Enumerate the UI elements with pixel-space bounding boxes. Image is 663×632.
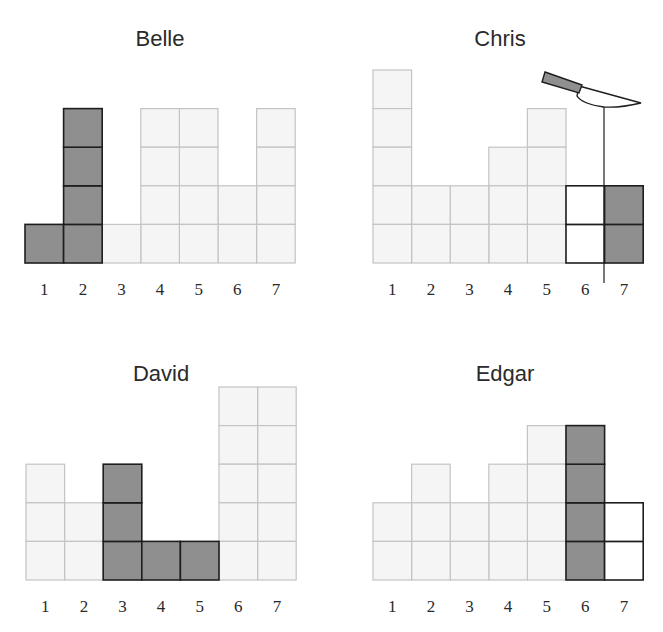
block-col6-row2-light (218, 186, 257, 225)
block-col7-row2-empty (605, 503, 644, 542)
block-col2-row2-light (412, 503, 451, 542)
column-label: 5 (542, 597, 551, 616)
block-col7-row4-light (258, 426, 297, 465)
block-col2-row2-light (65, 503, 104, 542)
block-col7-row4-light (257, 109, 296, 148)
block-col4-row1-light (489, 541, 528, 580)
panel-david: David 1234567 (26, 361, 296, 616)
column-label: 6 (234, 597, 243, 616)
block-col1-row2-light (26, 503, 65, 542)
column-label: 3 (118, 597, 127, 616)
column-label: 4 (504, 597, 513, 616)
knife-handle (542, 72, 582, 93)
block-col5-row2-light (179, 186, 218, 225)
block-col4-row2-light (489, 503, 528, 542)
block-col1-row1-light (26, 541, 65, 580)
block-col5-row4-light (527, 426, 566, 465)
block-col7-row1-empty (605, 541, 644, 580)
block-col2-row1-light (412, 541, 451, 580)
block-col7-row1-dark (605, 224, 644, 263)
block-col1-row1-light (373, 541, 412, 580)
block-col3-row2-light (450, 503, 489, 542)
block-col1-row1-light (373, 224, 412, 263)
block-col4-row2-light (141, 186, 180, 225)
column-label: 4 (156, 280, 165, 299)
column-label: 1 (41, 597, 50, 616)
block-col3-row3-dark (103, 464, 142, 503)
panel-belle: Belle 1234567 (25, 26, 295, 299)
panel-title: Chris (474, 26, 525, 51)
column-label: 2 (80, 597, 89, 616)
column-label: 6 (233, 280, 242, 299)
block-col1-row1-dark (25, 224, 64, 263)
panel-title: Edgar (476, 361, 535, 386)
block-col1-row5-light (373, 70, 412, 109)
block-col2-row3-dark (64, 147, 103, 186)
block-col1-row2-light (373, 503, 412, 542)
column-label: 2 (79, 280, 88, 299)
block-col4-row4-light (141, 109, 180, 148)
block-col4-row3-light (141, 147, 180, 186)
column-label: 7 (272, 280, 281, 299)
block-col5-row4-light (527, 109, 566, 148)
column-label: 1 (388, 597, 397, 616)
column-label: 2 (427, 280, 436, 299)
block-col6-row4-dark (566, 426, 605, 465)
block-col6-row4-light (219, 426, 258, 465)
block-col5-row2-light (527, 503, 566, 542)
block-towers-figure: Belle 1234567 Chris 1234567 David 123456… (0, 0, 663, 632)
block-col6-row1-light (218, 224, 257, 263)
block-col7-row2-light (257, 186, 296, 225)
block-col7-row1-light (258, 541, 297, 580)
block-col7-row2-dark (605, 186, 644, 225)
block-col7-row2-light (258, 503, 297, 542)
block-col1-row4-light (373, 109, 412, 148)
block-col2-row1-light (412, 224, 451, 263)
column-label: 2 (427, 597, 436, 616)
column-label: 6 (581, 597, 590, 616)
block-col7-row3-light (258, 464, 297, 503)
block-col6-row2-light (219, 503, 258, 542)
column-label: 6 (581, 280, 590, 299)
block-col2-row1-light (65, 541, 104, 580)
block-col3-row1-light (450, 541, 489, 580)
block-col3-row2-dark (103, 503, 142, 542)
block-col2-row1-dark (64, 224, 103, 263)
block-col6-row2-dark (566, 503, 605, 542)
block-col6-row3-light (219, 464, 258, 503)
column-label: 7 (273, 597, 282, 616)
column-label: 3 (465, 280, 474, 299)
block-col3-row2-light (450, 186, 489, 225)
block-col3-row1-light (450, 224, 489, 263)
panel-chris: Chris 1234567 (373, 26, 643, 299)
block-col4-row3-light (489, 464, 528, 503)
block-col4-row1-light (141, 224, 180, 263)
block-col6-row1-dark (566, 541, 605, 580)
column-label: 1 (40, 280, 49, 299)
column-label: 5 (195, 597, 204, 616)
column-label: 1 (388, 280, 397, 299)
block-col2-row2-dark (64, 186, 103, 225)
block-col2-row2-light (412, 186, 451, 225)
column-label: 5 (542, 280, 551, 299)
panel-title: David (133, 361, 189, 386)
block-col5-row1-light (179, 224, 218, 263)
block-col6-row3-dark (566, 464, 605, 503)
block-col4-row1-light (489, 224, 528, 263)
block-col3-row1-light (102, 224, 141, 263)
block-col7-row5-light (258, 387, 297, 426)
block-col6-row2-empty (566, 186, 605, 225)
column-label: 3 (117, 280, 126, 299)
block-col1-row2-light (373, 186, 412, 225)
column-label: 4 (157, 597, 166, 616)
block-col5-row1-dark (180, 541, 219, 580)
column-label: 7 (620, 597, 629, 616)
column-label: 7 (620, 280, 629, 299)
block-col5-row3-light (527, 464, 566, 503)
block-col6-row1-light (219, 541, 258, 580)
block-col7-row1-light (257, 224, 296, 263)
block-col5-row3-light (527, 147, 566, 186)
block-col6-row1-empty (566, 224, 605, 263)
block-col6-row5-light (219, 387, 258, 426)
block-col4-row2-light (489, 186, 528, 225)
